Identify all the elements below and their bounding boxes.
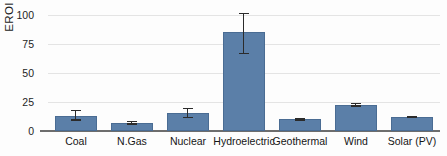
- error-bar-cap-bottom: [295, 119, 305, 120]
- error-bar-cap-bottom: [239, 53, 249, 54]
- y-tick-label: 100: [0, 10, 34, 20]
- bar[interactable]: [335, 105, 377, 131]
- error-bar: [355, 103, 356, 106]
- eroi-bar-chart: EROI 0255075100 CoalN.GasNuclearHydroele…: [0, 0, 447, 156]
- y-tick-label: 0: [0, 126, 34, 136]
- bars-layer: [48, 0, 440, 156]
- error-bar-cap-top: [183, 108, 193, 109]
- plot-area: 0255075100 CoalN.GasNuclearHydroelectric…: [48, 0, 440, 156]
- bar-group[interactable]: [328, 11, 384, 131]
- bar-group[interactable]: [48, 11, 104, 131]
- error-bar-cap-top: [127, 121, 137, 122]
- error-bar-cap-bottom: [183, 117, 193, 118]
- error-bar: [299, 118, 300, 120]
- error-bar: [411, 116, 412, 118]
- bar-group[interactable]: [160, 11, 216, 131]
- y-tick-label: 50: [0, 68, 34, 78]
- error-bar: [243, 13, 244, 55]
- error-bar: [187, 108, 188, 118]
- error-bar-cap-bottom: [127, 123, 137, 124]
- error-bar-cap-top: [351, 103, 361, 104]
- y-tick-label: 75: [0, 39, 34, 49]
- x-tick-label: Solar (PV): [373, 135, 447, 147]
- bar[interactable]: [391, 117, 433, 131]
- error-bar: [131, 121, 132, 125]
- bar-group[interactable]: [384, 11, 440, 131]
- y-tick-label: 25: [0, 97, 34, 107]
- bar[interactable]: [279, 119, 321, 131]
- error-bar: [75, 110, 76, 120]
- error-bar-cap-top: [239, 13, 249, 14]
- bar-group[interactable]: [216, 11, 272, 131]
- bar-group[interactable]: [104, 11, 160, 131]
- error-bar-cap-bottom: [351, 105, 361, 106]
- bar-group[interactable]: [272, 11, 328, 131]
- error-bar-cap-bottom: [407, 117, 417, 118]
- error-bar-cap-top: [71, 110, 81, 111]
- error-bar-cap-bottom: [71, 119, 81, 120]
